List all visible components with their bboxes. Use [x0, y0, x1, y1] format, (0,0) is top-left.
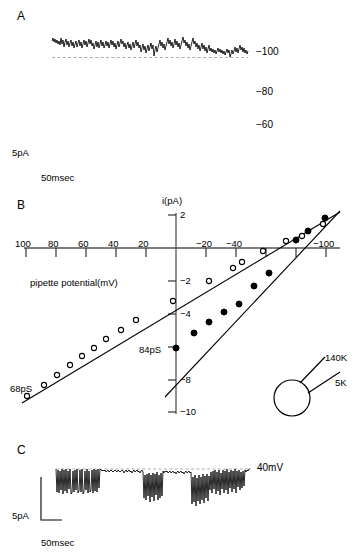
x-tick-label-80: 80 — [48, 238, 59, 249]
inset-pipette-line-140K — [300, 357, 325, 383]
slope-label-68pS: 68pS — [10, 383, 32, 394]
x-tick-label-minus20: −20 — [196, 238, 212, 249]
trace-label-40mV: 40mV — [257, 462, 283, 473]
scale-label-time-c: 50msec — [41, 537, 74, 548]
x-tick-label-100: 100 — [15, 238, 31, 249]
y-tick-label-minus4: −4 — [180, 308, 191, 319]
current-trace-minus100 — [52, 37, 248, 57]
inset-patch-diagram — [274, 357, 340, 416]
scale-label-current-a: 5pA — [12, 147, 29, 158]
x-axis-title: pipette potential(mV) — [30, 277, 118, 288]
slope-label-84pS: 84pS — [139, 344, 161, 355]
x-tick-label-20: 20 — [138, 238, 149, 249]
trace-label-minus100: −100 — [256, 46, 279, 57]
y-tick-label-minus10: −10 — [180, 406, 196, 417]
trace-label-minus80: −80 — [256, 86, 273, 97]
single-channel-trace-40mV — [56, 469, 250, 506]
scale-label-time-a: 50msec — [41, 172, 74, 183]
x-tick-label-minus40: −40 — [226, 238, 242, 249]
trace-label-minus60: −60 — [256, 119, 273, 130]
x-tick-label-40: 40 — [108, 238, 119, 249]
inset-cell-circle — [274, 380, 310, 416]
scale-label-current-c: 5pA — [12, 510, 29, 521]
inset-label-5K: 5K — [335, 377, 347, 388]
inset-label-140K: 140K — [325, 352, 347, 363]
x-tick-label-minus100: −100 — [313, 238, 334, 249]
panel-a-traces — [0, 0, 362, 185]
figure-root: A −100 −80 −60 5pA 50msec B — [0, 0, 362, 560]
y-tick-label-2: 2 — [180, 209, 185, 220]
x-tick-label-60: 60 — [78, 238, 89, 249]
y-axis-title: i(pA) — [162, 195, 182, 206]
y-tick-label-minus2: −2 — [180, 275, 191, 286]
y-tick-label-minus8: −8 — [180, 374, 191, 385]
